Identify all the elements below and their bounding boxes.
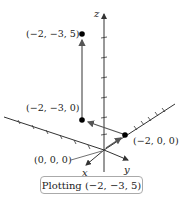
z-axis-label: z	[94, 9, 99, 19]
plotting-path	[82, 40, 123, 148]
y-axis-label: y	[124, 165, 130, 175]
point-neg2-0-0	[122, 132, 128, 138]
caption-box: Plotting (−2, −3, 5)	[40, 176, 143, 194]
caption-text: Plotting (−2, −3, 5)	[42, 180, 142, 191]
label-origin: (0, 0, 0)	[34, 155, 72, 165]
label-point-neg2-neg3-0: (−2, −3, 0)	[26, 103, 80, 113]
point-neg2-neg3-0	[79, 117, 85, 123]
label-point-neg2-0-0: (−2, 0, 0)	[133, 136, 179, 146]
label-point-neg2-neg3-5: (−2, −3, 5)	[26, 29, 80, 39]
point-neg2-neg3-5	[79, 31, 85, 37]
